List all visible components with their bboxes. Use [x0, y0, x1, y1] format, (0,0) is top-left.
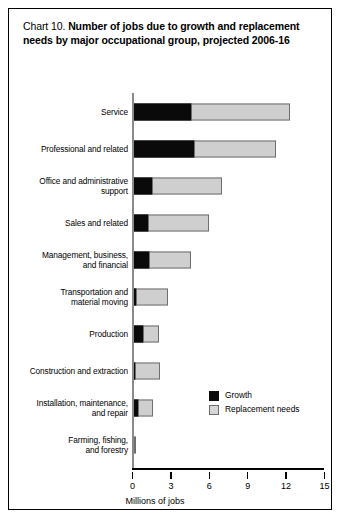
x-axis-tick: [209, 472, 211, 479]
x-axis-tick-label: 3: [156, 481, 186, 491]
stacked-bar: [134, 177, 223, 194]
bar-segment-replacement: [136, 288, 168, 305]
bar-row: Service: [9, 93, 331, 130]
category-label: Professional and related: [13, 143, 128, 153]
bar-segment-replacement: [138, 399, 153, 416]
x-axis-line: [132, 468, 324, 470]
chart-legend: GrowthReplacement needs: [209, 390, 300, 418]
category-label: Sales and related: [13, 217, 128, 227]
category-label: Transportation andmaterial moving: [13, 286, 128, 306]
bar-row: Construction and extraction: [9, 352, 331, 389]
category-label: Construction and extraction: [13, 365, 128, 375]
growth-swatch: [209, 391, 219, 401]
stacked-bar: [134, 325, 160, 342]
bar-segment-replacement: [152, 177, 222, 194]
chart-title-text: Number of jobs due to growth and replace…: [23, 20, 299, 46]
bar-segment-replacement: [148, 214, 209, 231]
x-axis-label: Millions of jobs: [65, 496, 245, 506]
bar-segment-replacement: [194, 140, 276, 157]
x-axis-tick-label: 0: [118, 481, 148, 491]
category-label: Production: [13, 328, 128, 338]
bar-row: Sales and related: [9, 204, 331, 241]
chart-figure: Chart 10. Number of jobs due to growth a…: [8, 8, 332, 510]
bar-row: Transportation andmaterial moving: [9, 278, 331, 315]
bar-segment-growth: [134, 103, 193, 120]
stacked-bar: [134, 214, 210, 231]
bar-row: Management, business,and financial: [9, 241, 331, 278]
stacked-bar: [134, 288, 169, 305]
x-axis: 03691215Millions of jobs: [9, 472, 331, 512]
x-axis-tick-label: 9: [233, 481, 263, 491]
bar-segment-replacement: [191, 103, 290, 120]
category-label: Office and administrativesupport: [13, 175, 128, 195]
x-axis-tick-label: 15: [310, 481, 340, 491]
plot-area: ServiceProfessional and relatedOffice an…: [9, 87, 331, 472]
x-axis-tick: [170, 472, 172, 479]
legend-item: Replacement needs: [209, 404, 300, 415]
x-axis-tick-label: 6: [194, 481, 224, 491]
stacked-bar: [134, 399, 153, 416]
bar-segment-replacement: [134, 436, 136, 453]
legend-label: Growth: [225, 390, 252, 401]
bar-segment-growth: [134, 214, 149, 231]
stacked-bar: [134, 103, 290, 120]
chart-title-lead: Chart 10.: [23, 20, 65, 32]
bar-segment-replacement: [143, 325, 159, 342]
legend-label: Replacement needs: [225, 404, 300, 415]
bar-row: Farming, fishing,and forestry: [9, 426, 331, 463]
stacked-bar: [134, 362, 161, 379]
stacked-bar: [134, 140, 276, 157]
x-axis-tick-label: 12: [271, 481, 301, 491]
stacked-bar: [134, 251, 192, 268]
bar-row: Production: [9, 315, 331, 352]
category-label: Management, business,and financial: [13, 249, 128, 269]
category-label: Installation, maintenance,and repair: [13, 397, 128, 417]
x-axis-tick: [247, 472, 249, 479]
legend-item: Growth: [209, 390, 300, 401]
stacked-bar: [134, 436, 136, 453]
chart-title: Chart 10. Number of jobs due to growth a…: [23, 19, 319, 47]
bar-segment-growth: [134, 251, 151, 268]
x-axis-tick: [285, 472, 287, 479]
x-axis-tick: [324, 472, 326, 479]
bar-segment-replacement: [135, 362, 161, 379]
category-label: Service: [13, 106, 128, 116]
bar-segment-growth: [134, 177, 153, 194]
bar-segment-growth: [134, 140, 195, 157]
bar-row: Professional and related: [9, 130, 331, 167]
bar-row: Office and administrativesupport: [9, 167, 331, 204]
bar-segment-replacement: [149, 251, 191, 268]
replacement-swatch: [209, 405, 219, 415]
x-axis-tick: [132, 472, 134, 479]
category-label: Farming, fishing,and forestry: [13, 434, 128, 454]
